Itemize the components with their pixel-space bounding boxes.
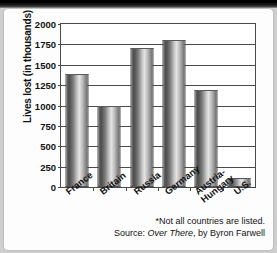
y-axis-title: Lives lost (in thousands) (22, 9, 33, 142)
y-tick-label: 0 (51, 182, 56, 193)
source-prefix: Source: (114, 228, 148, 238)
bar-slot (61, 24, 93, 187)
scan-page-edge (0, 0, 277, 8)
figure-card: Lives lost (in thousands) 02505007501000… (4, 9, 273, 250)
y-tick-label: 1750 (35, 39, 56, 50)
bar-slot (126, 24, 158, 187)
bar-slot (158, 24, 190, 187)
source-suffix: , by Byron Farwell (193, 228, 265, 238)
y-tick-label: 1250 (35, 80, 56, 91)
bar[interactable] (130, 48, 153, 187)
y-tick-label: 500 (40, 141, 56, 152)
source-title: Over There (147, 228, 193, 238)
y-tick-label: 250 (40, 161, 56, 172)
bar-slot (93, 24, 125, 187)
y-tick-label: 1000 (35, 100, 56, 111)
y-tick-label: 2000 (35, 19, 56, 30)
bar[interactable] (163, 40, 186, 187)
y-tick-mark (58, 187, 61, 188)
plot-area: 025050075010001250150017502000 (60, 23, 256, 188)
bar-chart-figure: Lives lost (in thousands) 02505007501000… (4, 9, 273, 250)
y-tick-label: 1500 (35, 59, 56, 70)
bar-slot (223, 24, 255, 187)
y-tick-label: 750 (40, 120, 56, 131)
footnote-text: *Not all countries are listed. (4, 215, 265, 227)
source-line: Source: Over There, by Byron Farwell (4, 227, 265, 239)
bars-group (61, 24, 255, 187)
chart-footnotes: *Not all countries are listed. Source: O… (4, 215, 265, 239)
